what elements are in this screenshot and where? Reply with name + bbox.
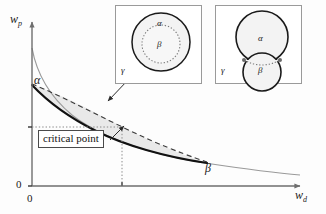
inset-2-contact-node-left: [242, 58, 246, 62]
x-axis-label: wd: [295, 188, 307, 204]
inset-partial-wetting: α β γ: [215, 5, 302, 84]
beta-label: β: [205, 161, 211, 176]
inset-2-alpha-label: α: [258, 33, 263, 43]
wetting-phase-diagram: wp wd 0 0 α β critical point α β γ α β γ: [0, 0, 326, 214]
inset-2-gamma-label: γ: [221, 65, 225, 75]
inset-1-alpha-label: α: [157, 18, 162, 28]
y-axis-label: wp: [10, 12, 22, 28]
critical-point-label: critical point: [38, 130, 104, 148]
shaded-coexistence-region: [32, 85, 205, 163]
origin-label-y: 0: [16, 178, 22, 190]
inset-1-gamma-label: γ: [121, 65, 125, 75]
alpha-label: α: [34, 73, 40, 88]
origin-label-x: 0: [27, 192, 33, 204]
inset-2-contact-node-right: [278, 58, 282, 62]
inset-engulfing: α β γ: [115, 5, 202, 84]
tie-line-dashed: [32, 84, 207, 162]
inset-1-beta-label: β: [157, 39, 161, 49]
inset-2-beta-label: β: [258, 65, 262, 75]
